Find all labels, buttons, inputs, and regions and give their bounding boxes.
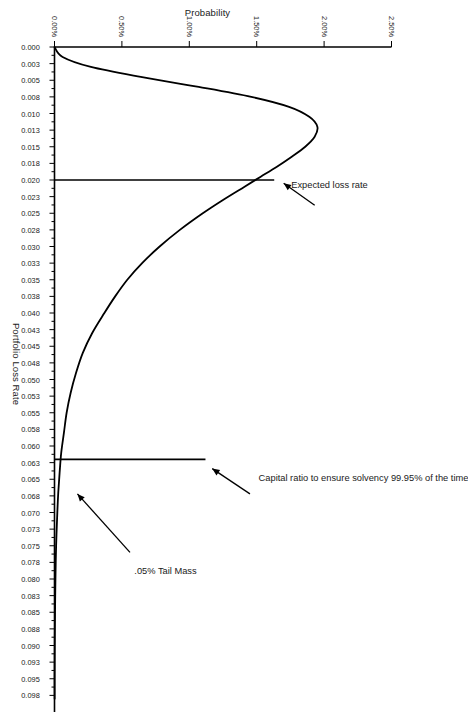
expected-loss-annotation: Expected loss rate bbox=[291, 180, 367, 190]
x-tick-label: 0.053 bbox=[21, 392, 40, 401]
x-tick-label: 0.030 bbox=[21, 242, 40, 251]
y-tick-label: 0.50% bbox=[117, 16, 126, 37]
x-tick-label: 0.068 bbox=[21, 491, 40, 500]
x-tick-label: 0.033 bbox=[21, 259, 40, 268]
x-tick-label: 0.045 bbox=[21, 342, 40, 351]
x-tick-label: 0.023 bbox=[21, 192, 40, 201]
x-tick-label: 0.020 bbox=[21, 176, 40, 185]
y-tick-label: 1.00% bbox=[184, 16, 193, 37]
x-tick-label: 0.043 bbox=[21, 325, 40, 334]
x-tick-label: 0.025 bbox=[21, 209, 40, 218]
x-tick-label: 0.010 bbox=[21, 109, 40, 118]
x-tick-label: 0.098 bbox=[21, 691, 40, 700]
annotation-leader-lines bbox=[77, 183, 314, 552]
x-tick-label: 0.028 bbox=[21, 225, 40, 234]
y-tick-label: 1.50% bbox=[252, 16, 261, 37]
x-tick-label: 0.005 bbox=[21, 76, 40, 85]
x-tick-label: 0.095 bbox=[21, 674, 40, 683]
x-tick-label: 0.040 bbox=[21, 309, 40, 318]
x-axis-ticks bbox=[49, 47, 54, 695]
x-tick-label: 0.038 bbox=[21, 292, 40, 301]
x-tick-label: 0.058 bbox=[21, 425, 40, 434]
axis-lines bbox=[54, 47, 391, 712]
x-tick-label: 0.003 bbox=[21, 59, 40, 68]
y-axis-ticks bbox=[54, 41, 391, 47]
capital-ratio-annotation: Capital ratio to ensure solvency 99.95% … bbox=[258, 473, 468, 483]
x-tick-label: 0.078 bbox=[21, 558, 40, 567]
x-tick-label: 0.013 bbox=[21, 126, 40, 135]
x-tick-label: 0.093 bbox=[21, 658, 40, 667]
y-tick-label: 0.00% bbox=[50, 16, 59, 37]
x-tick-label: 0.060 bbox=[21, 442, 40, 451]
x-tick-label: 0.090 bbox=[21, 641, 40, 650]
marker-lines bbox=[54, 180, 274, 459]
x-tick-label: 0.065 bbox=[21, 475, 40, 484]
x-tick-label: 0.083 bbox=[21, 591, 40, 600]
x-tick-label: 0.070 bbox=[21, 508, 40, 517]
x-tick-label: 0.073 bbox=[21, 525, 40, 534]
x-tick-label: 0.008 bbox=[21, 92, 40, 101]
x-tick-label: 0.048 bbox=[21, 358, 40, 367]
density-curve bbox=[54, 47, 317, 699]
x-tick-label: 0.075 bbox=[21, 541, 40, 550]
x-tick-label: 0.085 bbox=[21, 608, 40, 617]
x-tick-label: 0.015 bbox=[21, 142, 40, 151]
x-tick-label: 0.035 bbox=[21, 275, 40, 284]
y-tick-label: 2.50% bbox=[387, 16, 396, 37]
x-tick-label: 0.063 bbox=[21, 458, 40, 467]
x-tick-label: 0.088 bbox=[21, 624, 40, 633]
x-tick-label: 0.018 bbox=[21, 159, 40, 168]
x-tick-label: 0.000 bbox=[21, 43, 40, 52]
tail-mass-annotation: .05% Tail Mass bbox=[134, 566, 196, 576]
x-tick-label: 0.080 bbox=[21, 575, 40, 584]
x-axis-title: Portfolio Loss Rate bbox=[10, 323, 21, 405]
y-axis-title: Probability bbox=[184, 7, 229, 18]
y-tick-label: 2.00% bbox=[319, 16, 328, 37]
x-tick-label: 0.055 bbox=[21, 408, 40, 417]
x-tick-label: 0.050 bbox=[21, 375, 40, 384]
